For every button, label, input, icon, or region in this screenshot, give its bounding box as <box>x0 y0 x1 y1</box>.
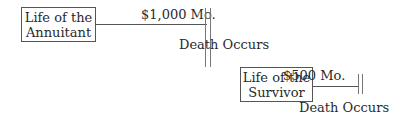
second-death-label: Death Occurs <box>299 100 389 115</box>
second-death-marker-left <box>358 74 359 94</box>
annuitant-box-line2: Annuitant <box>22 25 95 40</box>
annuitant-box-line1: Life of the <box>22 10 95 25</box>
survivor-payment-label: $500 Mo. <box>283 68 345 83</box>
second-death-marker-right <box>362 74 363 94</box>
annuitant-life-box: Life of the Annuitant <box>21 7 96 42</box>
survivor-payment-line <box>313 86 359 87</box>
survivor-box-line2: Survivor <box>241 85 312 100</box>
first-death-label: Death Occurs <box>179 37 269 52</box>
annuitant-payment-line <box>96 24 207 25</box>
